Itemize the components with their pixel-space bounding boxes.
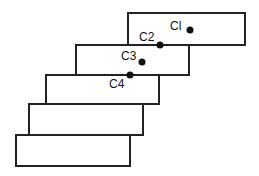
diagram-canvas: ClC2C3C4 bbox=[0, 0, 259, 176]
point-label-c1: Cl bbox=[170, 19, 181, 33]
blocks-layer bbox=[16, 13, 245, 166]
point-label-c2: C2 bbox=[139, 30, 155, 44]
point-dot-c3 bbox=[139, 59, 146, 66]
block-5 bbox=[16, 135, 130, 166]
stacked-blocks-diagram: ClC2C3C4 bbox=[0, 0, 259, 176]
point-dot-c1 bbox=[187, 27, 194, 34]
point-label-c4: C4 bbox=[109, 77, 125, 91]
point-dot-c2 bbox=[157, 42, 164, 49]
block-3 bbox=[46, 75, 159, 104]
point-label-c3: C3 bbox=[121, 49, 137, 63]
block-4 bbox=[29, 104, 143, 135]
point-dot-c4 bbox=[127, 72, 134, 79]
